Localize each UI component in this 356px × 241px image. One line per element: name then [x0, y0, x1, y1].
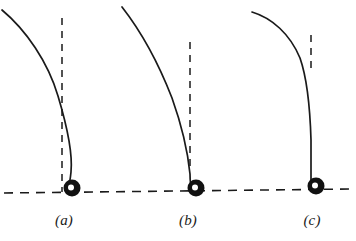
ball-highlight-a	[68, 185, 74, 191]
ball-b	[188, 180, 205, 197]
ball-c	[308, 178, 325, 195]
ball-highlight-c	[312, 183, 318, 189]
panel-b	[122, 7, 205, 197]
figure-container: (a) (b) (c)	[0, 0, 356, 241]
panel-a	[2, 10, 81, 197]
ball-highlight-b	[192, 185, 198, 191]
elastic-rod-curve-a	[2, 10, 71, 189]
panel-label-a: (a)	[44, 212, 84, 229]
ball-a	[64, 180, 81, 197]
ground-line	[4, 189, 352, 193]
panel-label-b: (b)	[168, 212, 208, 229]
panel-c	[252, 12, 325, 195]
panel-label-c: (c)	[292, 212, 332, 229]
elastic-rod-curve-c	[252, 12, 311, 188]
figure-canvas	[0, 0, 356, 241]
elastic-rod-curve-b	[122, 7, 191, 189]
